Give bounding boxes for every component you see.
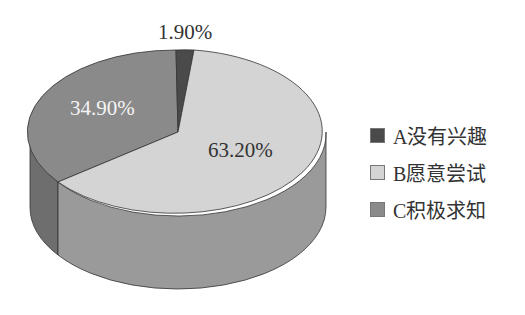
legend-swatch-c: [370, 202, 385, 217]
legend-label-c: C积极求知: [393, 195, 486, 224]
legend-item-c: C积极求知: [370, 191, 487, 228]
label-c-value: 34.90%: [70, 98, 135, 119]
label-b-value: 63.20%: [208, 140, 273, 161]
legend-item-b: B愿意尝试: [370, 154, 487, 191]
legend-swatch-b: [370, 165, 385, 180]
legend-label-a: A没有兴趣: [393, 121, 487, 150]
legend: A没有兴趣 B愿意尝试 C积极求知: [370, 117, 487, 228]
legend-swatch-a: [370, 128, 385, 143]
legend-item-a: A没有兴趣: [370, 117, 487, 154]
legend-label-b: B愿意尝试: [393, 158, 486, 187]
label-a-value: 1.90%: [158, 22, 212, 43]
